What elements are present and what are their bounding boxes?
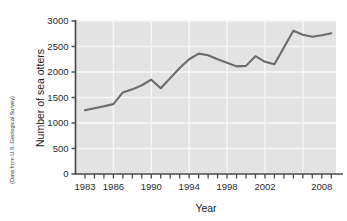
x-axis-title: Year [195,202,217,214]
y-tick-label: 1500 [47,92,68,103]
sea-otter-population-figure: 050010001500200025003000 198319861990199… [0,0,347,221]
y-tick-label: 1000 [47,117,68,128]
x-tick-label: 1998 [216,181,237,192]
y-axis-tick-labels: 050010001500200025003000 [47,15,68,179]
line-chart: 050010001500200025003000 198319861990199… [0,0,347,221]
x-axis-tick-labels: 1983198619901994199820022008 [74,181,332,192]
x-tick-label: 1983 [74,181,95,192]
y-tick-label: 3000 [47,15,68,26]
x-tick-label: 1986 [103,181,124,192]
y-tick-label: 0 [63,168,68,179]
x-tick-label: 1990 [141,181,162,192]
y-tick-label: 500 [53,143,69,154]
x-tick-label: 2008 [311,181,332,192]
y-tick-label: 2000 [47,66,68,77]
source-note: (Data from U.S. Geological Survey) [9,96,15,184]
x-tick-label: 2002 [254,181,275,192]
x-tick-label: 1994 [179,181,200,192]
y-tick-label: 2500 [47,41,68,52]
y-axis-title: Number of sea otters [34,49,46,147]
